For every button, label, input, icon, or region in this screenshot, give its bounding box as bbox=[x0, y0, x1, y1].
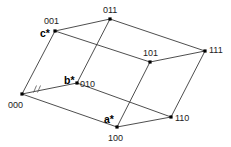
vertex-label-001: 001 bbox=[44, 16, 59, 26]
edge-000-001 bbox=[22, 31, 55, 94]
edge-010-011 bbox=[77, 19, 110, 83]
vertex-label-011: 011 bbox=[103, 5, 117, 15]
edge-100-110 bbox=[117, 117, 171, 127]
edge-000-100 bbox=[22, 94, 117, 127]
edge-101-111 bbox=[150, 51, 205, 62]
vertex-label-101: 101 bbox=[143, 48, 158, 58]
axis-label-a-star: a* bbox=[104, 113, 115, 125]
axis-labels-group: a*b*c* bbox=[40, 27, 115, 125]
axis-label-c-star: c* bbox=[40, 27, 51, 39]
vertex-001 bbox=[53, 29, 56, 32]
vertex-110 bbox=[169, 115, 172, 118]
vertex-010 bbox=[75, 81, 78, 84]
edge-110-111 bbox=[171, 51, 205, 117]
vertex-000 bbox=[20, 92, 23, 95]
vertex-111 bbox=[203, 49, 206, 52]
vertex-label-100: 100 bbox=[108, 133, 123, 143]
vertex-label-111: 111 bbox=[209, 45, 223, 55]
vertex-101 bbox=[148, 60, 151, 63]
vertex-label-000: 000 bbox=[8, 100, 23, 110]
vertex-label-010: 010 bbox=[80, 79, 95, 89]
axis-label-b-star: b* bbox=[64, 74, 75, 86]
break-slash bbox=[38, 86, 41, 93]
vertex-label-110: 110 bbox=[175, 113, 189, 123]
edge-011-111 bbox=[110, 19, 205, 51]
edge-001-101 bbox=[55, 31, 150, 62]
vertex-011 bbox=[108, 17, 111, 20]
vertex-labels-group: 000001010011100101110111 bbox=[8, 5, 223, 143]
vertex-100 bbox=[115, 125, 118, 128]
edge-001-011 bbox=[55, 19, 110, 31]
edge-100-101 bbox=[117, 62, 150, 127]
reciprocal-lattice-diagram: 000001010011100101110111 a*b*c* bbox=[0, 0, 231, 147]
